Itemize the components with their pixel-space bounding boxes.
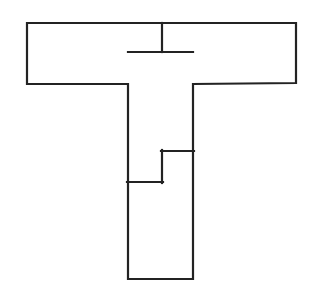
- figure-canvas: T-shaped polygon outline diagram A black…: [0, 0, 315, 297]
- t-shape-diagram: [0, 0, 315, 297]
